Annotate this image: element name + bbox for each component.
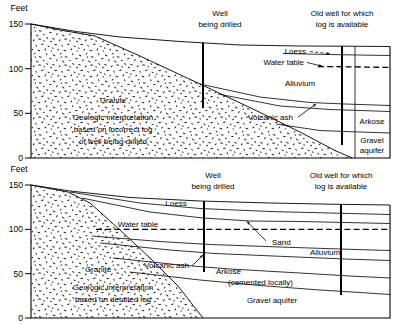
lower-axis-unit-label: Feet bbox=[10, 164, 28, 174]
upper-axis-unit-label: Feet bbox=[10, 3, 28, 13]
lower-label-gravel-aquifer: Gravel aquifer bbox=[247, 296, 298, 305]
upper-label-alluvium: Alluvium bbox=[285, 79, 316, 88]
lower-caption-line1: Geologic interpretation bbox=[73, 283, 154, 292]
lower-sand-leader bbox=[247, 222, 266, 242]
upper-caption-line2: based on incorrect log bbox=[74, 125, 153, 134]
upper-caption-line3: of well being drilled bbox=[79, 137, 147, 146]
upper-label-granite: Granite bbox=[100, 96, 127, 105]
lower-tick-50: 50 bbox=[14, 269, 24, 279]
lower-tick-100: 100 bbox=[9, 224, 23, 234]
lower-label-arkose-note: (cemented locally) bbox=[228, 278, 293, 287]
lower-panel: Feet 150 100 50 0 Well being drilled Old… bbox=[9, 164, 390, 323]
upper-panel: Feet 150 100 50 0 Well being drilled Old… bbox=[9, 3, 390, 163]
upper-old-well-label-line2: log is available bbox=[316, 20, 369, 29]
geologic-cross-section-figure: Feet 150 100 50 0 Well being drilled Old… bbox=[0, 0, 396, 324]
lower-label-arkose: Arkose bbox=[216, 267, 241, 276]
lower-label-alluvium: Alluvium bbox=[310, 248, 341, 257]
lower-old-well-label-line2: log is available bbox=[315, 182, 368, 191]
lower-axis bbox=[25, 185, 31, 318]
upper-water-table bbox=[318, 67, 390, 68]
upper-label-gravel-aquifer-line1: Gravel bbox=[360, 136, 384, 145]
upper-volcanic-ash-leader bbox=[298, 104, 316, 117]
upper-axis bbox=[25, 24, 31, 158]
lower-volcanic-ash-leader bbox=[192, 255, 203, 266]
upper-tick-0: 0 bbox=[18, 153, 23, 163]
upper-label-volcanic-ash: Volcanic ash bbox=[248, 113, 293, 122]
lower-well-label-line2: being drilled bbox=[191, 182, 234, 191]
upper-tick-150: 150 bbox=[9, 19, 23, 29]
lower-well-label-line1: Well bbox=[205, 171, 221, 180]
upper-old-well-label-line1: Old well for which bbox=[311, 9, 374, 18]
upper-loess-leader bbox=[310, 52, 330, 54]
lower-label-sand: Sand bbox=[272, 238, 291, 247]
lower-label-granite: Granite bbox=[85, 265, 112, 274]
upper-label-water-table: Water table bbox=[263, 58, 304, 67]
lower-tick-150: 150 bbox=[9, 180, 23, 190]
lower-caption-line2: based on detailed log bbox=[75, 295, 151, 304]
upper-label-gravel-aquifer-line2: aquifer bbox=[360, 146, 385, 155]
upper-caption-line1: Geologic interpretation bbox=[73, 113, 154, 122]
lower-tick-0: 0 bbox=[18, 313, 23, 323]
lower-label-water-table: Water table bbox=[118, 220, 159, 229]
upper-water-table-leader bbox=[307, 63, 322, 67]
lower-old-well-label-line1: Old well for which bbox=[310, 171, 373, 180]
upper-well-label-line2: being drilled bbox=[198, 20, 241, 29]
upper-tick-100: 100 bbox=[9, 64, 23, 74]
upper-well-label-line1: Well bbox=[212, 9, 228, 18]
lower-label-loess: Loess bbox=[165, 199, 186, 208]
upper-label-arkose: Arkose bbox=[360, 117, 385, 126]
upper-label-loess: Loess bbox=[285, 47, 306, 56]
upper-tick-50: 50 bbox=[14, 108, 24, 118]
lower-label-volcanic-ash: Volcanic ash bbox=[144, 261, 189, 270]
